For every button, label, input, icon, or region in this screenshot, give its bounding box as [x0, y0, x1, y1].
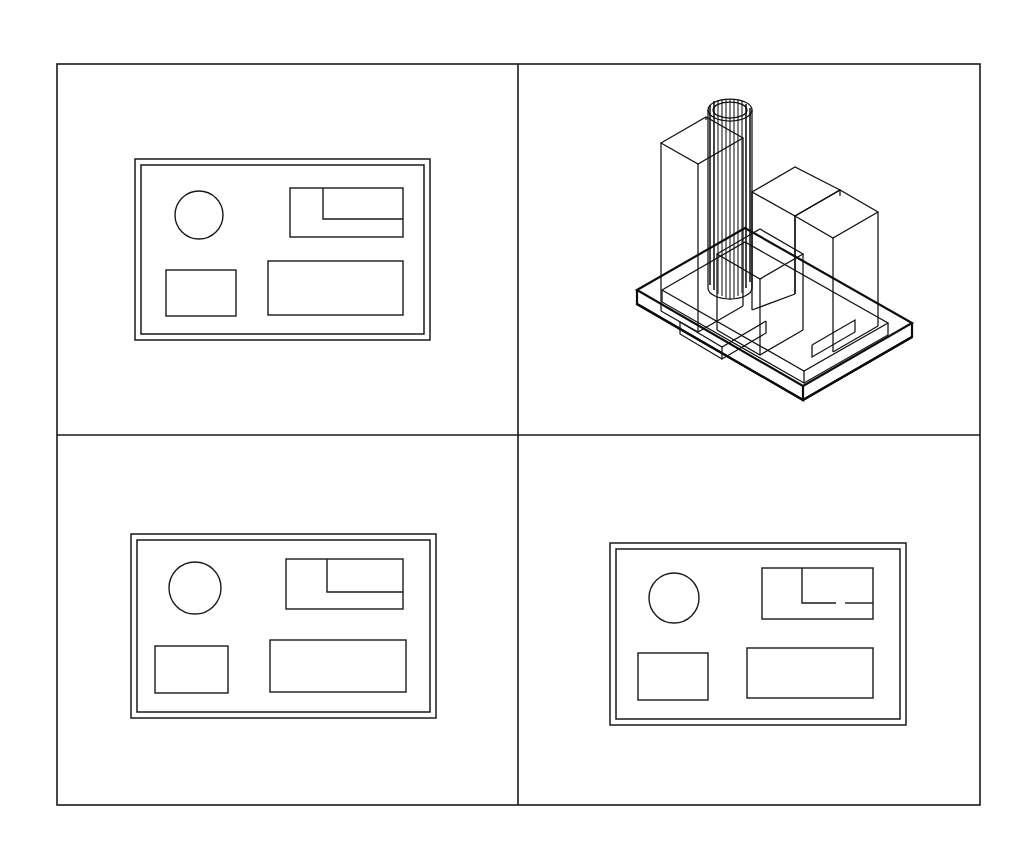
viewport-bottom-left: [131, 534, 436, 718]
notch-divider-top-left: [323, 188, 403, 219]
notch-divider-bottom-left: [327, 559, 403, 592]
iso-slab-front-edge: [637, 304, 912, 400]
notched-rect-bottom-right: [762, 568, 873, 619]
iso-tall-box-right: [795, 190, 878, 352]
small-rect-top-left: [166, 270, 236, 316]
viewport-top-left: [135, 159, 430, 340]
viewport-top-right: [637, 99, 912, 400]
large-rect-bottom-right: [747, 648, 873, 698]
iso-interior-lines: [680, 320, 855, 359]
circle-feature-top-left: [175, 191, 223, 239]
viewport-bottom-right: [610, 543, 906, 725]
circle-feature-bottom-left: [169, 562, 221, 614]
iso-tall-box-left: [661, 117, 743, 332]
iso-base-slab: [637, 228, 912, 400]
wall-inner-top-left: [141, 165, 424, 334]
notch-divider-bottom-right-part1: [802, 568, 836, 603]
cad-drawing-svg: [0, 0, 1016, 851]
notched-rect-bottom-left: [286, 559, 403, 609]
wall-outer-top-left: [135, 159, 430, 340]
notched-rect-top-left: [290, 188, 403, 237]
small-rect-bottom-right: [638, 653, 708, 700]
wall-inner-bottom-right: [616, 549, 900, 719]
large-rect-top-left: [268, 261, 403, 315]
large-rect-bottom-left: [270, 640, 406, 692]
circle-feature-bottom-right: [649, 573, 699, 623]
iso-cylinder-column: [708, 99, 752, 299]
drawing-canvas: [0, 0, 1016, 851]
small-rect-bottom-left: [155, 646, 228, 693]
wall-outer-bottom-left: [131, 534, 436, 718]
